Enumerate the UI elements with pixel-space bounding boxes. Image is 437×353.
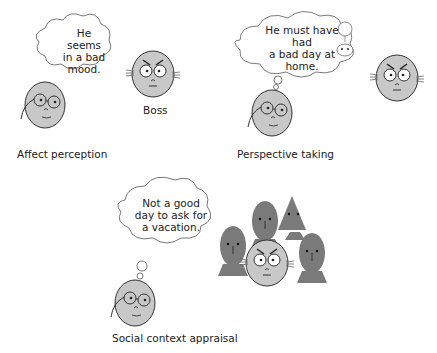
caption-affect-perception: Affect perception [17,148,107,160]
boss-face-perspective [370,55,424,101]
boss-face-social [240,240,294,286]
caption-social-context-appraisal: Social context appraisal [112,332,238,344]
caption-perspective-taking: Perspective taking [237,148,334,160]
crowd-group [218,196,327,286]
thought-text-affect: He seems in a bad mood. [52,27,116,75]
boss-label: Boss [143,104,168,116]
thought-text-social: Not a good day to ask for a vacation. [126,197,216,233]
thought-text-perspective: He must have had a bad day at home. [262,24,342,72]
observer-face-perspective [248,90,292,136]
triangle-head-icon [278,196,306,240]
observer-face-social [111,280,155,326]
observer-face-affect [21,82,65,128]
boss-face [126,51,180,97]
